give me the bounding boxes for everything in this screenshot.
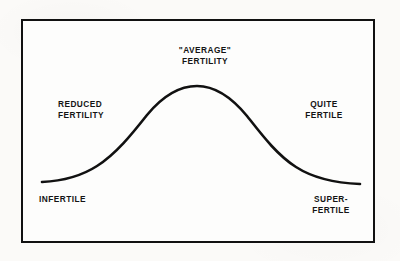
label-quite-fertile: QUITE FERTILE	[293, 99, 355, 120]
label-average-fertility: "AVERAGE" FERTILITY	[161, 45, 249, 66]
label-reduced-fertility: REDUCED FERTILITY	[58, 99, 138, 120]
label-infertile: INFERTILE	[39, 194, 119, 205]
label-super-fertile: SUPER- FERTILE	[300, 194, 362, 215]
figure-page: "AVERAGE" FERTILITY REDUCED FERTILITY QU…	[0, 0, 400, 261]
